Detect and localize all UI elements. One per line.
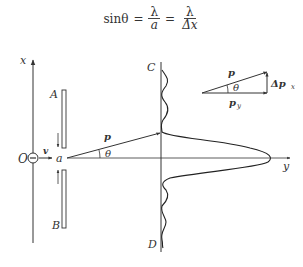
x-axis-label: x — [20, 54, 27, 67]
theta-label: θ — [105, 148, 111, 159]
plate-a-label: A — [49, 88, 58, 101]
screen-cd: C D — [147, 61, 161, 252]
electron-particle: O — [18, 152, 38, 166]
x-axis: x — [20, 54, 33, 243]
screen-d-label: D — [147, 238, 157, 251]
triangle-p-label: p — [228, 67, 235, 78]
screen-c-label: C — [147, 61, 156, 74]
slit-width-label: a — [56, 152, 63, 165]
triangle-theta-label: θ — [233, 82, 239, 93]
momentum-vector-triangle: p θ p y Δp x — [202, 67, 295, 110]
origin-label: O — [18, 152, 28, 166]
triangle-py-subscript: y — [236, 102, 242, 110]
single-slit-diffraction-diagram: x y O v a A B p θ C D — [0, 0, 303, 267]
angle-arc — [99, 150, 100, 158]
triangle-dpx-subscript: x — [291, 83, 295, 91]
triangle-py-label: p — [229, 97, 236, 108]
velocity-vector: v — [39, 146, 52, 158]
slit-plate-a: A — [49, 88, 66, 148]
triangle-dpx-label: Δp — [270, 78, 286, 89]
diffraction-intensity-curve — [161, 70, 270, 248]
momentum-vector: p θ — [67, 131, 160, 159]
slit-plate-b: B — [51, 170, 66, 232]
plate-b-label: B — [51, 219, 60, 232]
triangle-angle-arc — [227, 85, 228, 93]
y-axis-label: y — [282, 160, 290, 173]
velocity-label: v — [43, 146, 49, 156]
momentum-label: p — [104, 131, 111, 142]
